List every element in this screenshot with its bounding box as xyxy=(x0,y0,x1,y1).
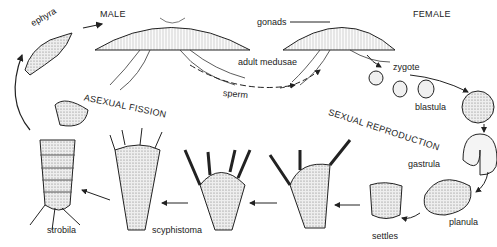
male-medusa xyxy=(95,18,250,90)
life-cycle-drawing xyxy=(0,0,497,247)
polyp-drawing-1 xyxy=(200,173,245,231)
settles-drawing xyxy=(370,183,402,219)
label-male: MALE xyxy=(100,10,126,19)
gastrula-drawing xyxy=(463,134,497,175)
label-blastula: blastula xyxy=(415,103,446,112)
label-planula: planula xyxy=(449,218,478,227)
label-strobila: strobila xyxy=(47,226,76,235)
label-adult-medusae: adult medusae xyxy=(238,58,297,67)
label-scyphistoma: scyphistoma xyxy=(152,226,202,235)
blastula-drawing xyxy=(462,91,494,123)
label-female: FEMALE xyxy=(413,10,451,19)
strobila-drawing xyxy=(40,140,75,210)
scyphistoma-drawing xyxy=(115,145,160,230)
planula-drawing xyxy=(424,180,471,215)
detaching-ephyra-drawing xyxy=(55,101,88,126)
polyp-drawing-2 xyxy=(290,164,330,228)
ephyra-drawing xyxy=(25,33,72,75)
label-zygote: zygote xyxy=(393,63,420,72)
label-gonads: gonads xyxy=(257,18,287,27)
label-gastrula: gastrula xyxy=(408,160,440,169)
label-settles: settles xyxy=(372,232,398,241)
